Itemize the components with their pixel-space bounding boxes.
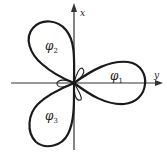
hybrid-orbitals-diagram: φ1 φ2 φ3 x y xyxy=(0,0,167,155)
axis-labels: x y xyxy=(80,8,160,80)
label-y-axis: y xyxy=(153,70,160,80)
label-phi1: φ1 xyxy=(110,69,123,85)
orbital-labels: φ1 φ2 φ3 xyxy=(45,39,123,125)
label-phi3: φ3 xyxy=(45,109,58,125)
vertical-axis-arrowhead xyxy=(71,3,77,12)
horizontal-axis-arrowhead xyxy=(155,80,163,86)
label-x-axis: x xyxy=(80,8,85,18)
label-phi2: φ2 xyxy=(45,39,58,55)
axes xyxy=(11,3,163,150)
